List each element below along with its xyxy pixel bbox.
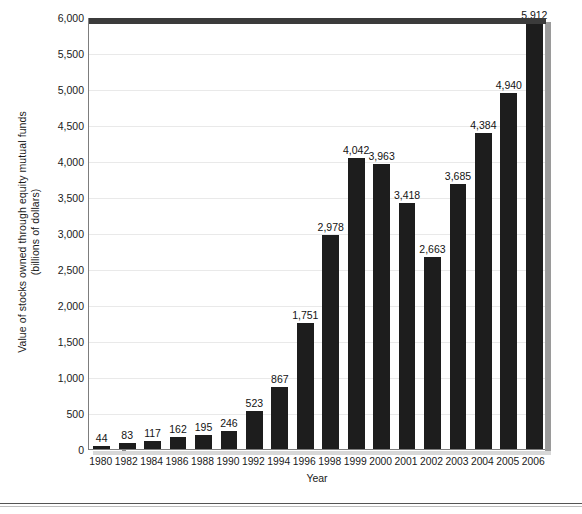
y-axis-tick-label: 3,000 xyxy=(38,229,84,240)
bar-1980[interactable]: 44 xyxy=(93,18,110,449)
bar-chart-figure: Value of stocks owned through equity mut… xyxy=(0,0,582,514)
y-axis-tick-label: 1,500 xyxy=(38,337,84,348)
bar-rect xyxy=(526,23,543,449)
bar-1982[interactable]: 83 xyxy=(119,18,136,449)
bar-rect xyxy=(399,203,416,449)
y-axis-tick-label: 2,500 xyxy=(38,265,84,276)
bar-rect xyxy=(144,441,161,449)
bar-1996[interactable]: 1,751 xyxy=(297,18,314,449)
plot-shadow-bottom xyxy=(93,451,551,455)
bar-value-label: 44 xyxy=(96,433,108,444)
x-axis-tick-label-2000: 2000 xyxy=(369,456,392,468)
bar-value-label: 3,685 xyxy=(445,171,471,182)
x-axis-tick-label-1996: 1996 xyxy=(293,456,316,468)
bar-rect xyxy=(322,235,339,449)
y-axis-tick-label: 4,500 xyxy=(38,121,84,132)
x-axis-tick-label-2001: 2001 xyxy=(395,456,418,468)
bar-value-label: 867 xyxy=(271,374,289,385)
x-axis-title: Year xyxy=(88,472,546,484)
bar-value-label: 117 xyxy=(144,428,161,439)
bar-value-label: 2,663 xyxy=(419,244,445,255)
x-axis-tick-label-1992: 1992 xyxy=(242,456,265,468)
bar-value-label: 4,940 xyxy=(496,80,522,91)
plot-area: 44831171621952465238671,7512,9784,0423,9… xyxy=(88,18,546,450)
bar-1986[interactable]: 162 xyxy=(170,18,187,449)
bar-1984[interactable]: 117 xyxy=(144,18,161,449)
y-axis-tick-label: 2,000 xyxy=(38,301,84,312)
y-axis-tick-label: 5,500 xyxy=(38,49,84,60)
x-axis-tick-labels: 1980198219841986198819901992199419961998… xyxy=(88,456,546,470)
bar-value-label: 195 xyxy=(195,422,213,433)
bars-layer: 44831171621952465238671,7512,9784,0423,9… xyxy=(89,18,546,449)
bar-rect xyxy=(221,431,238,449)
bar-value-label: 3,418 xyxy=(394,190,420,201)
x-axis-tick-label-1998: 1998 xyxy=(318,456,341,468)
bar-rect xyxy=(119,443,136,449)
x-axis-tick-label-1994: 1994 xyxy=(267,456,290,468)
bar-2006[interactable]: 5,912 xyxy=(526,18,543,449)
x-axis-tick-label-1986: 1986 xyxy=(166,456,189,468)
y-axis-tick-label: 1,000 xyxy=(38,373,84,384)
bar-rect xyxy=(297,323,314,449)
x-axis-tick-label-1999: 1999 xyxy=(344,456,367,468)
bar-1990[interactable]: 246 xyxy=(221,18,238,449)
bar-2003[interactable]: 3,685 xyxy=(450,18,467,449)
bar-rect xyxy=(93,446,110,449)
y-axis-tick-labels: 05001,0001,5002,0002,5003,0003,5004,0004… xyxy=(38,18,84,450)
x-axis-tick-label-1982: 1982 xyxy=(115,456,138,468)
x-axis-tick-label-2005: 2005 xyxy=(496,456,519,468)
x-axis-tick-label-2004: 2004 xyxy=(471,456,494,468)
bar-value-label: 83 xyxy=(121,430,133,441)
bar-rect xyxy=(195,435,212,449)
bar-1992[interactable]: 523 xyxy=(246,18,263,449)
x-axis-tick-label-1988: 1988 xyxy=(191,456,214,468)
bar-1998[interactable]: 2,978 xyxy=(322,18,339,449)
bar-rect xyxy=(246,411,263,449)
bar-value-label: 246 xyxy=(220,418,238,429)
x-axis-tick-label-1990: 1990 xyxy=(216,456,239,468)
bar-rect xyxy=(424,257,441,449)
y-axis-tick-label: 5,000 xyxy=(38,85,84,96)
bar-value-label: 4,384 xyxy=(470,120,496,131)
bar-value-label: 4,042 xyxy=(343,145,369,156)
bar-rect xyxy=(475,133,492,449)
bar-rect xyxy=(271,387,288,449)
bar-2000[interactable]: 3,963 xyxy=(373,18,390,449)
y-axis-tick-label: 3,500 xyxy=(38,193,84,204)
bar-rect xyxy=(450,184,467,449)
x-axis-tick-label-1984: 1984 xyxy=(140,456,163,468)
bar-rect xyxy=(348,158,365,449)
page-divider-rule xyxy=(0,503,582,504)
bar-rect xyxy=(373,164,390,449)
y-axis-tick-label: 500 xyxy=(38,409,84,420)
page-divider-rule-shadow xyxy=(0,506,582,507)
x-axis-tick-label-2006: 2006 xyxy=(522,456,545,468)
bar-value-label: 523 xyxy=(246,398,264,409)
y-axis-tick-label: 6,000 xyxy=(38,13,84,24)
bar-1999[interactable]: 4,042 xyxy=(348,18,365,449)
bar-value-label: 3,963 xyxy=(368,151,394,162)
bar-1988[interactable]: 195 xyxy=(195,18,212,449)
y-axis-tick-label: 4,000 xyxy=(38,157,84,168)
bar-2002[interactable]: 2,663 xyxy=(424,18,441,449)
plot-right-border xyxy=(545,18,546,451)
bar-rect xyxy=(500,93,517,449)
bar-value-label: 162 xyxy=(169,424,187,435)
bar-2004[interactable]: 4,384 xyxy=(475,18,492,449)
bar-2005[interactable]: 4,940 xyxy=(500,18,517,449)
y-axis-tick-label: 0 xyxy=(38,445,84,456)
plot-top-shadow-bar xyxy=(89,18,546,24)
bar-2001[interactable]: 3,418 xyxy=(399,18,416,449)
plot-shadow-right xyxy=(546,22,551,454)
x-axis-tick-label-1980: 1980 xyxy=(89,456,112,468)
bar-rect xyxy=(170,437,187,449)
x-axis-tick-label-2002: 2002 xyxy=(420,456,443,468)
bar-1994[interactable]: 867 xyxy=(271,18,288,449)
x-axis-tick-label-2003: 2003 xyxy=(445,456,468,468)
bar-value-label: 2,978 xyxy=(318,222,344,233)
bar-value-label: 1,751 xyxy=(292,310,318,321)
